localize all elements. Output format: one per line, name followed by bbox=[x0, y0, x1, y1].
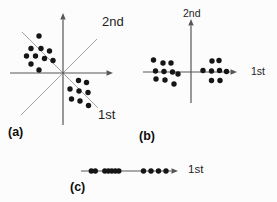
data-point-dot bbox=[171, 81, 176, 86]
data-point-dot bbox=[209, 58, 214, 63]
data-point-dot bbox=[216, 58, 221, 63]
axis-arrowhead-icon bbox=[231, 69, 238, 74]
data-point-dot bbox=[77, 98, 82, 103]
panel-b-1st-axis-label: 1st bbox=[251, 66, 265, 77]
data-point-dot bbox=[209, 78, 214, 83]
data-point-dot bbox=[86, 103, 91, 108]
data-point-dot bbox=[151, 57, 156, 62]
axis-arrowhead-icon bbox=[107, 70, 114, 75]
panel-b-caption: (b) bbox=[139, 130, 155, 143]
data-point-dot bbox=[36, 33, 41, 38]
data-point-dot bbox=[148, 168, 153, 173]
data-point-dot bbox=[38, 46, 43, 51]
axis-arrowhead-icon bbox=[60, 13, 65, 20]
data-point-dot bbox=[76, 88, 81, 93]
data-point-dot bbox=[141, 168, 146, 173]
data-point-dot bbox=[42, 56, 47, 61]
data-point-dot bbox=[161, 69, 166, 74]
data-point-dot bbox=[162, 77, 167, 82]
data-point-dot bbox=[163, 168, 168, 173]
data-point-dot bbox=[170, 69, 175, 74]
data-point-dot bbox=[217, 78, 222, 83]
data-point-dot bbox=[33, 53, 38, 58]
data-point-dot bbox=[168, 60, 173, 65]
data-point-dot bbox=[24, 53, 29, 58]
data-point-dot bbox=[156, 168, 161, 173]
data-point-dot bbox=[153, 68, 158, 73]
data-point-dot bbox=[160, 60, 165, 65]
data-point-dot bbox=[69, 96, 74, 101]
data-point-dot bbox=[153, 76, 158, 81]
data-point-dot bbox=[200, 68, 205, 73]
axis-arrowhead-icon bbox=[172, 168, 179, 173]
data-point-dot bbox=[50, 58, 55, 63]
data-point-dot bbox=[84, 80, 89, 85]
panel-c bbox=[81, 168, 178, 173]
data-point-dot bbox=[36, 67, 41, 72]
panel-b bbox=[143, 19, 237, 103]
axis-arrowhead-icon bbox=[188, 19, 193, 26]
data-point-dot bbox=[209, 68, 214, 73]
data-point-dot bbox=[175, 71, 180, 76]
panel-c-caption: (c) bbox=[70, 181, 85, 194]
pc-axis-line bbox=[22, 32, 98, 108]
figure-svg bbox=[0, 0, 277, 202]
data-point-dot bbox=[224, 69, 229, 74]
data-point-dot bbox=[47, 48, 52, 53]
data-point-dot bbox=[85, 90, 90, 95]
data-point-dot bbox=[28, 61, 33, 66]
panel-c-1st-axis-label: 1st bbox=[188, 164, 203, 176]
data-point-dot bbox=[116, 168, 121, 173]
panel-a-2nd-axis-label: 2nd bbox=[102, 15, 124, 28]
data-point-dot bbox=[76, 78, 81, 83]
panel-a-1st-axis-label: 1st bbox=[98, 108, 115, 121]
panel-b-2nd-axis-label: 2nd bbox=[183, 8, 201, 19]
panel-a-caption: (a) bbox=[8, 126, 23, 139]
data-point-dot bbox=[67, 86, 72, 91]
data-point-dot bbox=[217, 68, 222, 73]
data-point-dot bbox=[28, 46, 33, 51]
data-point-dot bbox=[93, 168, 98, 173]
pca-figure: 2nd 1st 2nd 1st 1st (a) (b) (c) bbox=[0, 0, 277, 202]
